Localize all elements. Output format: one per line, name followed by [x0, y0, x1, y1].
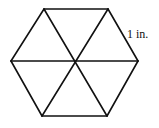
side-length-label: 1 in. [127, 27, 148, 41]
hexagon-edge-lower-left [11, 61, 42, 116]
hexagon-edge-lower-right [107, 61, 138, 116]
hexagon-edge-upper-left [11, 9, 44, 61]
hexagon-diagram: 1 in. [0, 0, 159, 128]
